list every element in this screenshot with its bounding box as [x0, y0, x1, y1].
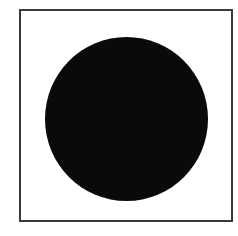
- figure-canvas: [0, 0, 238, 236]
- black-circle: [45, 37, 208, 201]
